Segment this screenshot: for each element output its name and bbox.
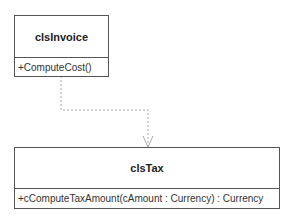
class-operation: +cComputeTaxAmount(cAmount : Currency) :… (15, 189, 279, 208)
class-name: clsInvoice (15, 16, 108, 58)
class-clsTax[interactable]: clsTax +cComputeTaxAmount(cAmount : Curr… (14, 147, 280, 209)
class-operation: +ComputeCost() (15, 58, 108, 76)
class-name: clsTax (15, 148, 279, 189)
class-clsInvoice[interactable]: clsInvoice +ComputeCost() (14, 15, 109, 77)
